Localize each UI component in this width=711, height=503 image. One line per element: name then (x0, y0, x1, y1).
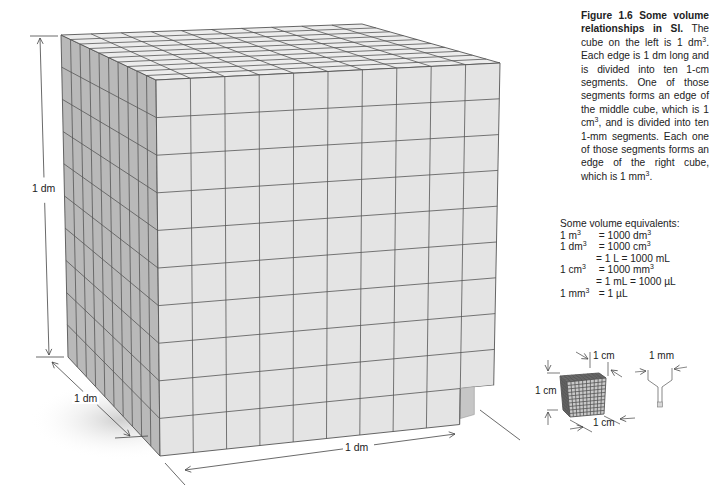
figure-caption: Figure 1.6 Some volume relationships in … (581, 9, 709, 183)
caption-text-4: . (649, 171, 652, 182)
mid-cube-top-label: 1 cm (593, 350, 615, 361)
mid-cube-bottom-label: 1 cm (593, 417, 615, 428)
equivalent-row: 1 mm3 = 1 µL (560, 288, 679, 300)
large-cube-1dm (61, 24, 500, 456)
mid-cube-left-label: 1 cm (535, 385, 557, 396)
equivalent-row: 1 m3 = 1000 dm3 (560, 230, 679, 242)
equivalent-row: 1 dm3 = 1000 cm3 (560, 241, 679, 253)
volume-equivalents: Some volume equivalents: 1 m3 = 1000 dm3… (560, 218, 679, 299)
equivalent-row: = 1 L = 1000 mL (560, 253, 679, 265)
small-cube-label: 1 mm (649, 350, 674, 361)
caption-title: Figure 1.6 Some volume relationships in … (581, 10, 709, 34)
caption-text-2: . Each edge is 1 dm long and is divided … (581, 37, 709, 128)
height-label: 1 dm (30, 182, 57, 194)
width-label: 1 dm (343, 441, 370, 453)
middle-cube-1cm (545, 352, 635, 432)
small-cube-1mm (635, 365, 687, 407)
depth-label: 1 dm (72, 392, 99, 404)
equivalent-row: = 1 mL = 1000 µL (560, 276, 679, 288)
equivalent-row: 1 cm3 = 1000 mm3 (560, 264, 679, 276)
